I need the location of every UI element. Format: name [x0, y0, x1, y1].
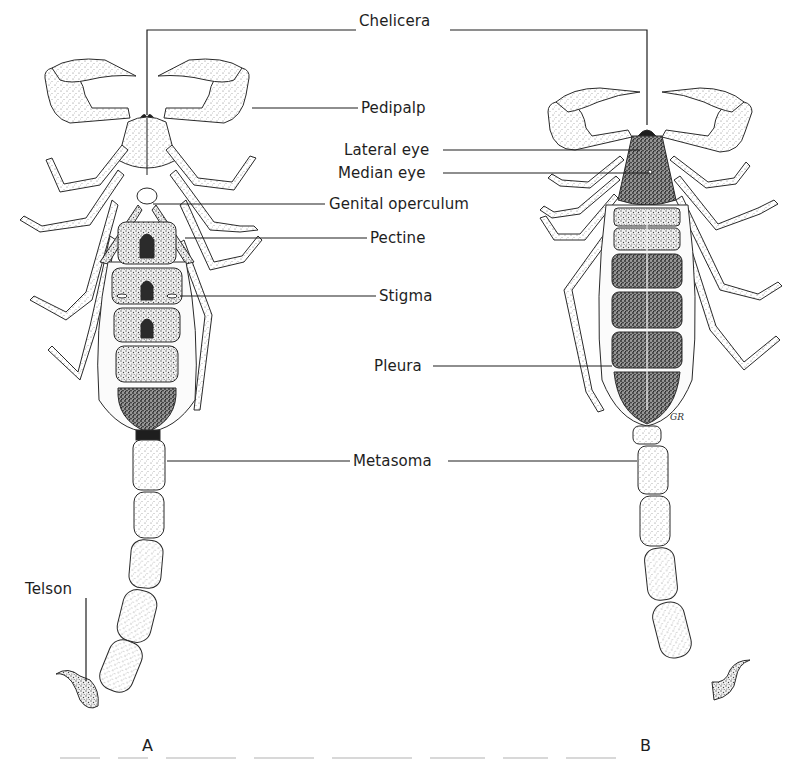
mesosoma-b — [599, 205, 695, 426]
label-genital-operculum: Genital operculum — [329, 195, 469, 213]
pedipalp-right-b — [662, 88, 752, 152]
label-pectine: Pectine — [370, 229, 425, 247]
label-pleura: Pleura — [374, 357, 422, 375]
panel-label-b: B — [640, 737, 651, 755]
genital-operculum-a — [137, 188, 157, 204]
cropped-caption-fragment — [60, 757, 750, 768]
scorpion-b-dorsal: GR — [540, 88, 782, 700]
label-median-eye: Median eye — [338, 164, 426, 182]
carapace-b — [618, 136, 676, 205]
pedipalp-left-a — [45, 59, 136, 123]
label-lateral-eye: Lateral eye — [344, 141, 429, 159]
metasoma-a — [95, 430, 165, 696]
telson-a — [56, 670, 98, 708]
artist-monogram: GR — [670, 412, 684, 422]
scorpion-a-ventral — [20, 59, 262, 708]
telson-b — [712, 660, 750, 700]
panel-label-a: A — [142, 737, 153, 755]
label-metasoma: Metasoma — [353, 452, 432, 470]
label-chelicera: Chelicera — [359, 12, 430, 30]
chelicera-b — [638, 130, 656, 136]
label-pedipalp: Pedipalp — [361, 99, 426, 117]
label-telson: Telson — [25, 580, 72, 598]
pedipalp-right-a — [158, 59, 249, 123]
pedipalp-left-b — [548, 88, 640, 150]
label-stigma: Stigma — [379, 287, 433, 305]
metasoma-b — [633, 426, 694, 661]
scorpion-anatomy-figure: GR Chelicera Pedipalp Lateral eye Median… — [0, 0, 804, 768]
